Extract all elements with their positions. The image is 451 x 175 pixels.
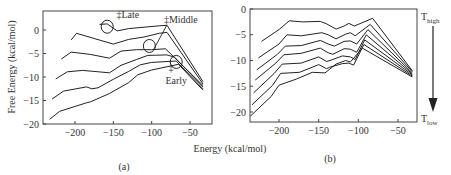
temperature-arrow: Thigh Tlow — [421, 11, 440, 127]
panel-a-lines — [50, 24, 203, 119]
x-axis-label: Energy (kcal/mol) — [194, 143, 267, 155]
y-tick-label: −15 — [230, 81, 246, 92]
panel-a-label: (a) — [118, 161, 129, 173]
panel-a-annotations: ‡Late‡Middle‡Early — [101, 9, 198, 86]
transition-state-circle — [143, 39, 155, 52]
y-axis-label: Free Energy (kcal/mol) — [6, 20, 18, 113]
annotation-label: Early — [165, 75, 187, 86]
figure-canvas: Free Energy (kcal/mol) Energy (kcal/mol)… — [0, 0, 451, 175]
x-tick-label: −200 — [65, 127, 86, 138]
annotation-label: ‡ — [169, 62, 174, 73]
x-tick-label: −200 — [269, 125, 290, 136]
x-tick-label: −50 — [182, 127, 198, 138]
arrow-down-icon — [429, 98, 438, 112]
y-tick-label: −10 — [23, 72, 39, 83]
annotation-label: ‡Middle — [164, 14, 198, 25]
y-tick-label: 0 — [34, 25, 39, 36]
x-tick-label: −150 — [103, 127, 124, 138]
y-tick-label: −20 — [230, 107, 246, 118]
x-tick-label: −100 — [141, 127, 162, 138]
y-tick-label: −20 — [23, 119, 39, 130]
panel-b-label: (b) — [324, 153, 336, 165]
y-tick-label: −5 — [28, 48, 39, 59]
panel-b: 0−5−10−15−20 −200−150−100−50 (b) Thigh T… — [230, 4, 440, 166]
annotation-pointer — [153, 25, 167, 50]
panel-a-frame — [43, 11, 212, 124]
y-tick-label: −5 — [235, 29, 246, 40]
annotation-label: ‡Late — [116, 9, 139, 20]
panel-b-lines — [250, 18, 412, 116]
t-low-label: Tlow — [421, 113, 439, 127]
y-tick-label: −15 — [23, 95, 39, 106]
figure: Free Energy (kcal/mol) Energy (kcal/mol)… — [0, 0, 451, 175]
x-tick-label: −100 — [348, 125, 369, 136]
t-high-label: Thigh — [421, 11, 440, 25]
panel-a: 0−5−10−15−20 −200−150−100−50 ‡Late‡Middl… — [23, 9, 212, 173]
x-tick-label: −50 — [390, 125, 406, 136]
y-tick-label: 0 — [241, 4, 246, 15]
x-tick-label: −150 — [308, 125, 329, 136]
y-tick-label: −10 — [230, 55, 246, 66]
